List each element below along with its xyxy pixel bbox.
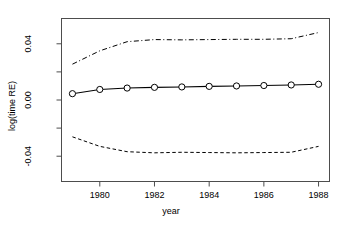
y-tick-label: 0.00 — [23, 91, 33, 109]
x-axis-ticks — [100, 182, 319, 187]
upper-confidence-band — [72, 33, 318, 65]
data-point — [288, 82, 294, 88]
y-axis-ticks — [57, 44, 62, 156]
x-axis-tick-labels: 19801982198419861988 — [90, 190, 329, 200]
estimate-line — [72, 84, 318, 93]
data-point — [151, 84, 157, 90]
x-tick-label: 1986 — [254, 190, 274, 200]
x-tick-label: 1980 — [90, 190, 110, 200]
chart-plot-area: -0.040.000.04 19801982198419861988 log(t… — [0, 0, 342, 235]
y-tick-label: 0.04 — [23, 35, 33, 53]
estimate-series — [72, 84, 318, 93]
data-point — [179, 84, 185, 90]
x-tick-label: 1982 — [144, 190, 164, 200]
x-axis-title: year — [0, 206, 342, 216]
data-point — [97, 86, 103, 92]
confidence-bands — [72, 33, 318, 153]
y-axis-tick-labels: -0.040.000.04 — [23, 35, 33, 166]
lower-confidence-band — [72, 137, 318, 153]
x-tick-label: 1988 — [309, 190, 329, 200]
data-point — [315, 81, 321, 87]
x-tick-label: 1984 — [199, 190, 219, 200]
y-tick-label: -0.04 — [23, 146, 33, 167]
y-axis-title: log(time RE) — [7, 70, 17, 142]
data-point — [261, 82, 267, 88]
data-point — [206, 83, 212, 89]
data-point — [69, 91, 75, 97]
chart-canvas: -0.040.000.04 19801982198419861988 — [0, 0, 342, 235]
plot-frame — [62, 19, 330, 182]
data-point — [233, 83, 239, 89]
data-point — [124, 85, 130, 91]
